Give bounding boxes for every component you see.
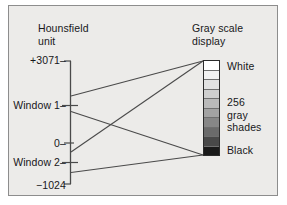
- gray-band-6: [204, 109, 219, 119]
- ray-window1-upper-to-white: [71, 61, 203, 96]
- gray-scale-bar: [203, 60, 220, 156]
- gray-band-9: [204, 137, 219, 147]
- axis-label-window-2: Window 2–: [0, 157, 66, 168]
- grayscale-label-white: White: [227, 60, 254, 73]
- gray-band-7: [204, 118, 219, 128]
- axis-label-max-3071: +3071–: [0, 55, 66, 66]
- hounsfield-unit-title: Hounsfield unit: [38, 22, 89, 47]
- gray-band-8: [204, 128, 219, 138]
- gray-band-5: [204, 99, 219, 109]
- grayscale-label-black: Black: [227, 144, 253, 157]
- gray-band-3: [204, 80, 219, 90]
- axis-label-min-1024: −1024: [0, 180, 66, 191]
- gray-band-10: [204, 147, 219, 156]
- grayscale-label-256-gray-shades: 256 gray shades: [227, 96, 261, 134]
- figure-container: Hounsfield unit Gray scale display +3071…: [0, 0, 287, 205]
- ray-window2-upper-to-white: [71, 61, 203, 152]
- ray-window2-lower-to-black: [71, 155, 203, 173]
- gray-band-2: [204, 71, 219, 81]
- gray-scale-display-title: Gray scale display: [192, 22, 243, 47]
- ray-window1-lower-to-black: [71, 112, 203, 156]
- axis-label-zero: 0–: [0, 138, 66, 149]
- gray-band-1: [204, 61, 219, 71]
- axis-label-window-1: Window 1–: [0, 100, 66, 111]
- gray-band-4: [204, 90, 219, 100]
